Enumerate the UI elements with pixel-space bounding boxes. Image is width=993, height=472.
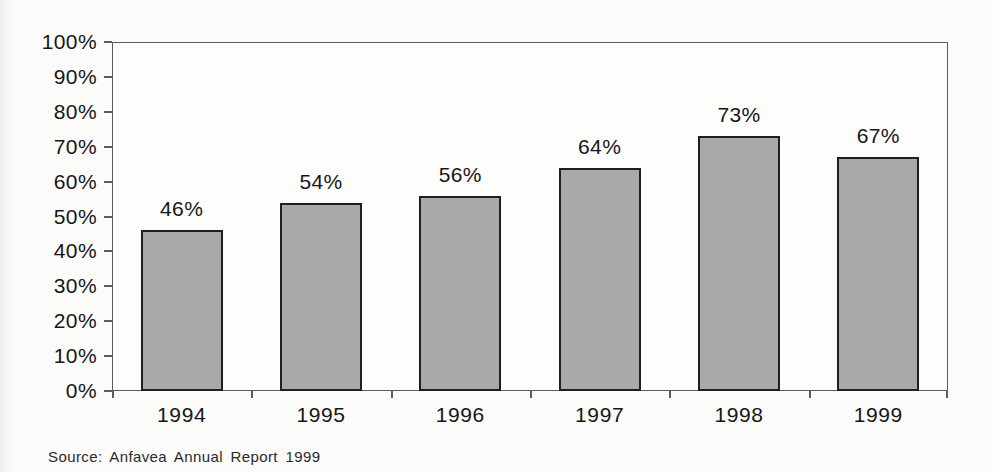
bar-chart-figure: 0%10%20%30%40%50%60%70%80%90%100% 46%54%…	[0, 0, 993, 472]
y-axis-tick	[104, 320, 112, 322]
source-note: Source: Anfavea Annual Report 1999	[48, 448, 320, 465]
x-axis-tick	[669, 391, 671, 398]
x-axis-label-1999: 1999	[808, 403, 948, 427]
y-axis-tick	[104, 355, 112, 357]
x-axis-label-1996: 1996	[390, 403, 530, 427]
bar-value-label-1997: 64%	[550, 135, 650, 159]
x-axis-label-1994: 1994	[112, 403, 252, 427]
x-axis-tick	[391, 391, 393, 398]
y-axis-tick	[104, 41, 112, 43]
bar-value-label-1999: 67%	[828, 124, 928, 148]
y-axis-tick-label: 50%	[0, 206, 97, 228]
x-axis-label-1997: 1997	[530, 403, 670, 427]
y-axis-tick	[104, 390, 112, 392]
bar-value-label-1994: 46%	[132, 197, 232, 221]
x-axis-tick	[112, 391, 114, 398]
x-axis-tick	[251, 391, 253, 398]
y-axis-tick-label: 90%	[0, 66, 97, 88]
bar-1998	[698, 136, 780, 391]
y-axis-tick-label: 20%	[0, 310, 97, 332]
y-axis-tick	[104, 285, 112, 287]
y-axis-tick-label: 100%	[0, 31, 97, 53]
bar-value-label-1998: 73%	[689, 103, 789, 127]
x-axis-tick	[946, 391, 948, 398]
bar-value-label-1995: 54%	[271, 170, 371, 194]
bar-1995	[280, 203, 362, 391]
bar-1996	[419, 196, 501, 391]
y-axis-tick	[104, 76, 112, 78]
y-axis-tick	[104, 111, 112, 113]
y-axis-tick-label: 40%	[0, 240, 97, 262]
y-axis-tick-label: 60%	[0, 171, 97, 193]
bar-1999	[837, 157, 919, 391]
x-axis-label-1998: 1998	[669, 403, 809, 427]
y-axis-tick-label: 0%	[0, 380, 97, 402]
y-axis-tick	[104, 146, 112, 148]
bar-1994	[141, 230, 223, 391]
x-axis-tick	[809, 391, 811, 398]
y-axis-tick	[104, 250, 112, 252]
bar-value-label-1996: 56%	[410, 163, 510, 187]
y-axis-tick	[104, 181, 112, 183]
x-axis-label-1995: 1995	[251, 403, 391, 427]
plot-area	[112, 42, 948, 391]
y-axis-tick-label: 80%	[0, 101, 97, 123]
y-axis-tick-label: 70%	[0, 136, 97, 158]
y-axis-tick	[104, 216, 112, 218]
x-axis-tick	[530, 391, 532, 398]
y-axis-tick-label: 10%	[0, 345, 97, 367]
y-axis-tick-label: 30%	[0, 275, 97, 297]
bar-1997	[559, 168, 641, 391]
